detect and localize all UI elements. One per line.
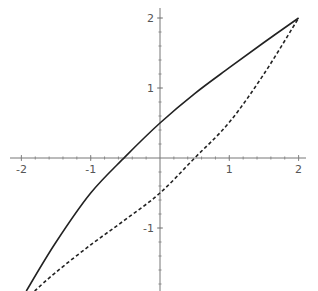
y-tick-label: -1 (143, 222, 154, 235)
x-tick-label: 1 (226, 163, 233, 176)
dashed-curve (35, 18, 299, 291)
axes (10, 8, 306, 291)
chart-canvas: -2-112 -112 (0, 0, 318, 291)
x-tick-label: -1 (85, 163, 96, 176)
y-tick-label: 1 (147, 82, 154, 95)
y-tick-label: 2 (147, 12, 154, 25)
x-tick-label: -2 (16, 163, 27, 176)
solid-curve (26, 18, 298, 291)
data-series (26, 18, 298, 291)
x-tick-label: 2 (295, 163, 302, 176)
